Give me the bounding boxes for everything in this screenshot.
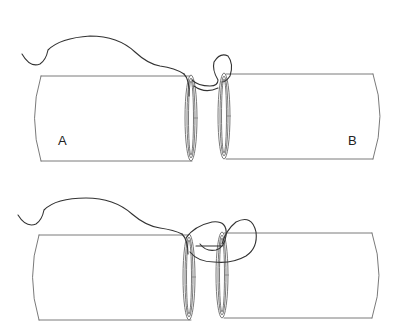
- bottom-panel: [18, 198, 379, 320]
- suture-thread-top: [22, 36, 232, 96]
- tube-a-top: [35, 75, 198, 161]
- anastomosis-diagram: A B: [0, 0, 396, 334]
- suture-thread-bottom: [18, 198, 256, 262]
- label-tube-b: B: [348, 134, 357, 147]
- tube-a-bottom: [33, 234, 196, 320]
- top-panel: [22, 36, 380, 161]
- tube-b-bottom: [216, 232, 379, 318]
- label-tube-a: A: [58, 134, 67, 147]
